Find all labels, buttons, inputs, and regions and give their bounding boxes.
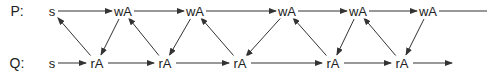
node-p4: wA	[348, 4, 368, 19]
node-q0: s	[48, 56, 57, 71]
node-q5: rA	[395, 56, 410, 71]
node-p2: wA	[185, 4, 205, 19]
edge-q3-p2	[201, 18, 234, 56]
node-p0: s	[48, 4, 57, 19]
node-q3: rA	[233, 56, 248, 71]
edge-p3-q3	[246, 18, 281, 57]
node-q2: rA	[158, 56, 173, 71]
edge-p2-q2	[169, 19, 190, 55]
node-p3: wA	[277, 4, 297, 19]
row-label-q: Q:	[10, 55, 25, 71]
edge-p5-q5	[406, 19, 424, 55]
node-p1: wA	[113, 4, 133, 19]
row-label-p: P:	[10, 3, 23, 19]
node-p5: wA	[418, 4, 438, 19]
edge-q5-p4	[364, 18, 396, 56]
edge-p1-q1	[101, 19, 119, 55]
edge-q4-p3	[293, 18, 327, 57]
edge-q1-p0	[58, 18, 91, 56]
node-q4: rA	[326, 56, 341, 71]
edge-p4-q4	[337, 19, 354, 55]
node-q1: rA	[90, 56, 105, 71]
edge-q2-p1	[129, 18, 160, 56]
